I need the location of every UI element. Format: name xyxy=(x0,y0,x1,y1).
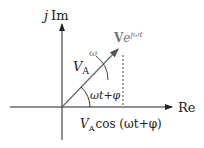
omega-label: ω xyxy=(89,47,97,58)
phasor-diagram: jIm Re Vejωt ω VA ωt+φ VAcos (ωt+φ) xyxy=(0,0,204,148)
angle-label: ωt+φ xyxy=(90,89,121,102)
phasor-diagram-svg: jIm Re Vejωt ω VA ωt+φ VAcos (ωt+φ) xyxy=(0,0,204,148)
rotating-phasor-label: Vejωt xyxy=(113,30,143,45)
magnitude-label: VA xyxy=(73,59,89,76)
real-axis-label: Re xyxy=(178,100,196,115)
projection-label: VAcos (ωt+φ) xyxy=(80,117,162,133)
imaginary-axis-label: jIm xyxy=(41,8,69,23)
angle-arc xyxy=(81,87,90,107)
rotation-arc xyxy=(96,56,108,80)
